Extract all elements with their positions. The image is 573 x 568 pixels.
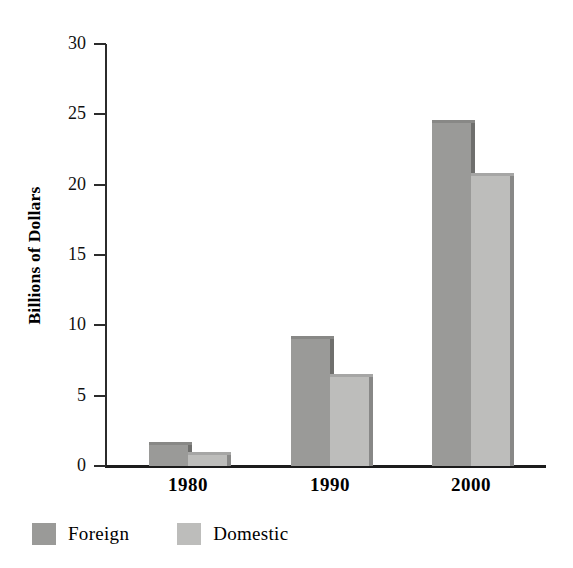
y-axis-tick xyxy=(94,324,106,326)
y-axis-tick-label: 5 xyxy=(40,386,86,404)
bar-face xyxy=(188,455,227,466)
bar-face xyxy=(149,445,188,466)
bar-chart: Billions of Dollars 051015202530 1980199… xyxy=(0,0,573,568)
y-axis-tick-label: 15 xyxy=(40,245,86,263)
bar-side-shadow xyxy=(227,455,231,466)
bar-face xyxy=(432,123,471,466)
bar-2000-domestic xyxy=(471,176,510,466)
bar-top-cap xyxy=(149,442,192,445)
x-axis-label-1990: 1990 xyxy=(260,474,400,496)
y-axis-tick xyxy=(94,254,106,256)
bar-face xyxy=(291,339,330,466)
bar-1980-foreign xyxy=(149,445,188,466)
legend-label-domestic: Domestic xyxy=(213,523,288,545)
legend-item-domestic: Domestic xyxy=(177,523,288,545)
y-axis-tick-label: 25 xyxy=(40,104,86,122)
bar-top-cap xyxy=(291,336,334,339)
x-axis-label-1980: 1980 xyxy=(118,474,258,496)
y-axis-tick xyxy=(94,113,106,115)
bar-top-cap xyxy=(330,374,373,377)
bar-1990-foreign xyxy=(291,339,330,466)
y-axis-tick xyxy=(94,395,106,397)
bar-side-shadow xyxy=(510,176,514,466)
bar-face xyxy=(471,176,510,466)
y-axis-tick xyxy=(94,43,106,45)
legend-item-foreign: Foreign xyxy=(32,523,129,545)
y-axis-tick-label: 30 xyxy=(40,34,86,52)
y-axis-tick xyxy=(94,465,106,467)
x-axis-label-2000: 2000 xyxy=(401,474,541,496)
legend-label-foreign: Foreign xyxy=(68,523,129,545)
bar-face xyxy=(330,377,369,466)
bar-2000-foreign xyxy=(432,123,471,466)
bar-1980-domestic xyxy=(188,455,227,466)
bar-top-cap xyxy=(188,452,231,455)
legend-swatch-foreign xyxy=(32,523,56,545)
bar-side-shadow xyxy=(369,377,373,466)
y-axis-tick xyxy=(94,184,106,186)
y-axis-line xyxy=(105,44,107,468)
bar-top-cap xyxy=(471,173,514,176)
y-axis-tick-label: 20 xyxy=(40,175,86,193)
y-axis-tick-label: 0 xyxy=(40,456,86,474)
bar-top-cap xyxy=(432,120,475,123)
chart-legend: Foreign Domestic xyxy=(32,523,288,545)
y-axis-tick-label: 10 xyxy=(40,315,86,333)
bar-1990-domestic xyxy=(330,377,369,466)
legend-swatch-domestic xyxy=(177,523,201,545)
